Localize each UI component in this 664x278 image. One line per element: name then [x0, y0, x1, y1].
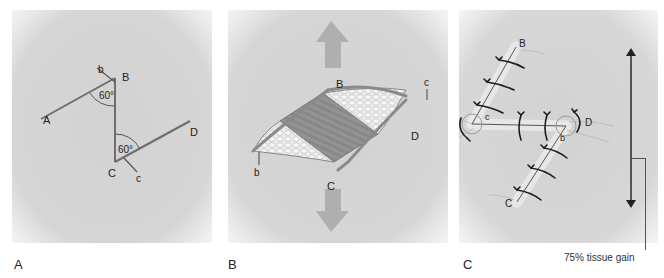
panel-a: A B b C c D 60° 60°: [12, 10, 212, 243]
annotation-leader-line-vertical: [645, 158, 646, 250]
angle-label-bottom: 60°: [118, 144, 133, 155]
label-b-lower: b: [98, 64, 104, 75]
label-b-lower: b: [560, 133, 565, 143]
label-a: A: [43, 114, 51, 126]
z-plasty-result-diagram: B A c D b C: [459, 10, 658, 243]
panel-letter-b: B: [228, 257, 237, 272]
label-c-upper: C: [108, 167, 116, 179]
label-c-upper: C: [505, 198, 512, 209]
label-d: D: [411, 130, 419, 142]
z-plasty-design-diagram: A B b C c D 60° 60°: [12, 10, 212, 243]
panel-c: B A c D b C: [459, 10, 658, 243]
tissue-gain-caption: 75% tissue gain: [564, 252, 635, 263]
label-b-upper: B: [336, 78, 343, 90]
panel-letter-a: A: [14, 257, 23, 272]
panel-letter-c: C: [463, 257, 472, 272]
label-d: D: [585, 117, 592, 128]
label-d: D: [190, 126, 198, 138]
label-c-upper: C: [327, 180, 335, 192]
label-b-lower: b: [254, 167, 260, 178]
panel-b: B c D C b: [228, 10, 448, 243]
annotation-leader-line: [631, 158, 645, 159]
label-b-upper: B: [122, 71, 129, 83]
angle-label-top: 60°: [99, 90, 114, 101]
label-b: B: [519, 38, 526, 49]
flap-elevation-diagram: B c D C b: [228, 10, 448, 243]
label-c-lower: c: [136, 173, 141, 184]
label-c-lower: c: [424, 77, 429, 88]
label-c-lower: c: [485, 112, 490, 122]
